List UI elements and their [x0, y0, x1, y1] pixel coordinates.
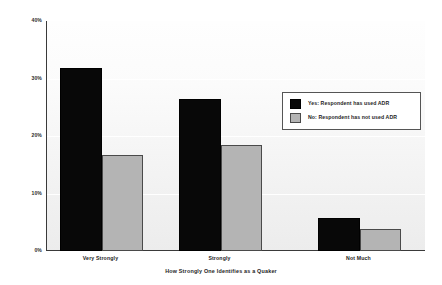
- bar-not-much-no: [360, 229, 402, 251]
- legend-label-yes: Yes: Respondent has used ADR: [308, 101, 389, 106]
- legend-swatch-yes-icon: [290, 99, 301, 109]
- bar-strongly-no: [221, 145, 263, 251]
- y-axis-tick-0: 0%: [8, 248, 42, 253]
- bar-chart: 40% 30% 20% 10% 0% Yes: Respondent ha: [0, 0, 442, 285]
- bar-very-strongly-no: [102, 155, 144, 251]
- plot-area: Yes: Respondent has used ADR No: Respond…: [46, 21, 425, 251]
- gridline-30: [47, 79, 425, 80]
- legend-label-no: No: Respondent has not used ADR: [308, 115, 397, 120]
- bar-strongly-yes: [179, 99, 221, 251]
- bar-very-strongly-yes: [60, 68, 102, 251]
- x-axis-category-not-much: Not Much: [346, 256, 371, 261]
- x-axis-category-very-strongly: Very Strongly: [83, 256, 118, 261]
- chart-legend: Yes: Respondent has used ADR No: Respond…: [282, 92, 421, 130]
- x-axis-category-strongly: Strongly: [208, 256, 230, 261]
- y-axis-tick-20: 20%: [8, 133, 42, 138]
- legend-item-no: No: Respondent has not used ADR: [283, 111, 420, 125]
- bar-not-much-yes: [318, 218, 360, 251]
- y-axis-tick-40: 40%: [8, 18, 42, 23]
- gridline-20: [47, 136, 425, 137]
- x-axis-title: How Strongly One Identifies as a Quaker: [0, 269, 442, 274]
- legend-item-yes: Yes: Respondent has used ADR: [283, 97, 420, 111]
- y-axis-tick-30: 30%: [8, 76, 42, 81]
- plot-inner: [47, 21, 425, 251]
- legend-swatch-no-icon: [290, 113, 301, 123]
- y-axis-tick-10: 10%: [8, 191, 42, 196]
